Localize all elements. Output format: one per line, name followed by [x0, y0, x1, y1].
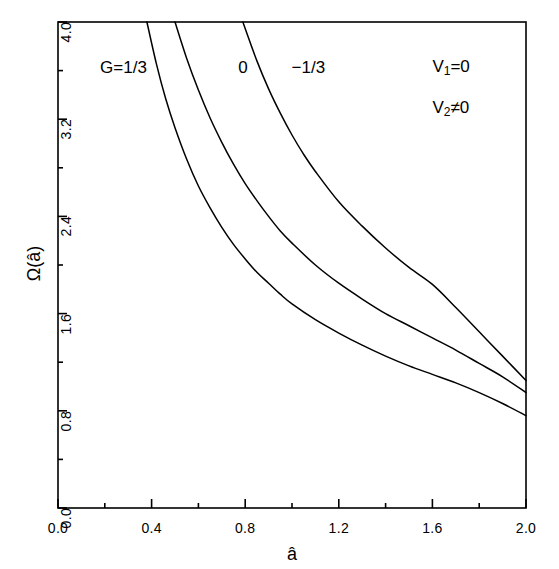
plot-canvas — [0, 0, 559, 569]
y-axis-title: Ω(â) — [24, 234, 45, 294]
axis-ticks — [58, 22, 526, 508]
annotation-v1: V1=0 — [432, 57, 469, 78]
curve-2 — [243, 22, 526, 380]
y-tick-label: 3.2 — [58, 119, 74, 139]
y-tick-label: 2.4 — [58, 216, 74, 236]
y-tick-label: 4.0 — [58, 22, 74, 42]
x-tick-label: 0.4 — [141, 520, 161, 536]
annotation-symbol: V — [432, 98, 443, 117]
annotation-symbol: V — [432, 57, 443, 76]
curve-0 — [147, 22, 526, 416]
data-curves — [147, 22, 526, 416]
x-tick-label: 1.6 — [422, 520, 442, 536]
annotation-v2: V2≠0 — [432, 98, 469, 119]
chart-figure: 0.00.40.81.21.62.0 0.00.81.62.43.24.0 â … — [0, 0, 559, 569]
y-tick-label: 0.0 — [58, 508, 74, 528]
y-tick-label: 0.8 — [58, 411, 74, 431]
y-tick-label: 1.6 — [58, 314, 74, 334]
curve-label-zero: 0 — [238, 58, 247, 78]
x-tick-label: 2.0 — [516, 520, 536, 536]
curve-label--1-3: −1/3 — [292, 58, 326, 78]
curve-1 — [175, 22, 526, 393]
plot-frame — [58, 22, 526, 508]
x-axis-title: â — [287, 544, 297, 565]
x-tick-label: 1.2 — [329, 520, 349, 536]
x-tick-label: 0.8 — [235, 520, 255, 536]
annotation-relation: =0 — [450, 57, 469, 76]
annotation-relation: ≠0 — [450, 98, 469, 117]
curve-label-G-1-3: G=1/3 — [100, 58, 147, 78]
